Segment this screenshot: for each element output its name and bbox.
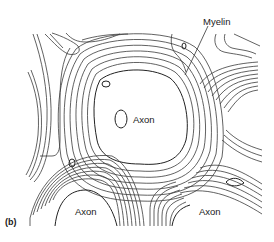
panel-label: (b) [5, 218, 17, 227]
axon-bottom-left-label: Axon [75, 207, 97, 217]
myelin-label: Myelin [203, 17, 230, 27]
right-myelin-fibers [180, 130, 262, 214]
bottom-right-axon-myelin [150, 182, 190, 226]
axon-organelle [115, 110, 127, 128]
axon-organelle-small [102, 81, 110, 87]
axon-bottom-right-label: Axon [199, 207, 221, 217]
myelin-cross-section-figure: Myelin Axon Axon Axon (b) [0, 0, 274, 242]
axon-center-label: Axon [133, 115, 155, 125]
